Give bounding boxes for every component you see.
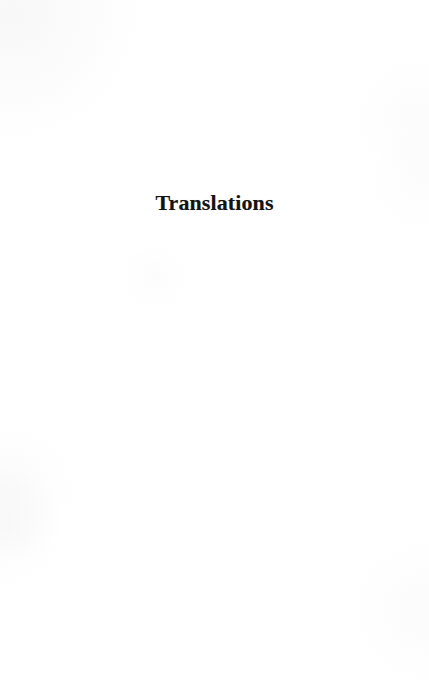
- book-page: Translations: [0, 0, 429, 694]
- page-title: Translations: [155, 190, 273, 216]
- scan-texture-overlay: [0, 0, 429, 694]
- section-title-block: Translations: [0, 190, 429, 216]
